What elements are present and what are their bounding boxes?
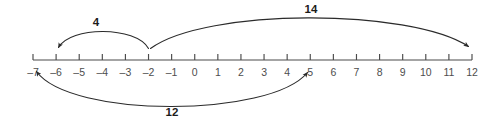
tick-label: 12 bbox=[466, 66, 478, 78]
tick-label: 7 bbox=[354, 66, 360, 78]
jump-arc-14: 14 bbox=[151, 3, 469, 49]
arc-label-14: 14 bbox=[305, 3, 318, 15]
tick-label: 1 bbox=[215, 66, 221, 78]
tick-label: 3 bbox=[261, 66, 267, 78]
tick-label: –6 bbox=[50, 66, 62, 78]
tick-label: –3 bbox=[120, 66, 132, 78]
tick-group bbox=[33, 54, 472, 60]
arc-label-12: 12 bbox=[166, 106, 179, 118]
tick-label: –1 bbox=[166, 66, 178, 78]
tick-label: 8 bbox=[377, 66, 383, 78]
jump-arc-4: 4 bbox=[59, 16, 149, 49]
tick-label: 5 bbox=[307, 66, 313, 78]
axis-group: –7–6–5–4–3–2–10123456789101112 bbox=[27, 54, 478, 78]
jump-arc-12: 12 bbox=[37, 72, 308, 119]
numberline-canvas: –7–6–5–4–3–2–10123456789101112 4 14 12 bbox=[0, 0, 501, 124]
tick-label: 0 bbox=[192, 66, 198, 78]
tick-label: –2 bbox=[143, 66, 155, 78]
arc-path-14 bbox=[151, 18, 469, 49]
tick-label: –5 bbox=[73, 66, 85, 78]
numberline-diagram: –7–6–5–4–3–2–10123456789101112 4 14 12 bbox=[0, 0, 501, 124]
arc-path-4 bbox=[59, 31, 149, 48]
tick-label: 4 bbox=[284, 66, 290, 78]
tick-label: 6 bbox=[330, 66, 336, 78]
tick-label-group: –7–6–5–4–3–2–10123456789101112 bbox=[27, 66, 478, 78]
tick-label: 9 bbox=[400, 66, 406, 78]
tick-label: 10 bbox=[420, 66, 432, 78]
arc-label-4: 4 bbox=[93, 16, 100, 28]
tick-label: –4 bbox=[96, 66, 108, 78]
tick-label: 11 bbox=[443, 66, 454, 78]
tick-label: 2 bbox=[238, 66, 244, 78]
